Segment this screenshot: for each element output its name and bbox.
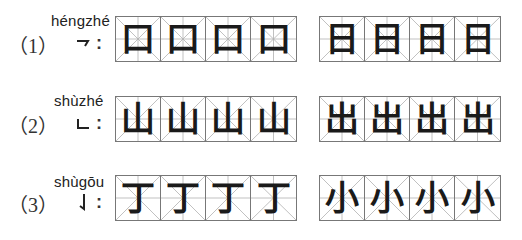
tracing-grid-1: 口 口 口 口: [115, 16, 297, 62]
character: 口: [251, 17, 296, 61]
tracing-cell: 山: [206, 97, 251, 141]
character: 山: [161, 97, 205, 141]
colon: :: [96, 192, 102, 213]
character: 丁: [206, 176, 250, 220]
tracing-grid-1: 山 山 山 山: [115, 96, 297, 142]
tracing-cell: 小: [320, 176, 365, 220]
tracing-cell: 口: [161, 17, 206, 61]
tracing-cell: 口: [251, 17, 296, 61]
character: 山: [206, 97, 250, 141]
tracing-grid-2: 小 小 小 小: [319, 175, 501, 221]
exercise-row-2: shùzhé （2） : 山 山 山 山 出 出 出 出: [0, 80, 522, 150]
character: 口: [206, 17, 250, 61]
character: 小: [365, 176, 409, 220]
character: 山: [251, 97, 296, 141]
shugou-stroke-icon: [75, 192, 91, 212]
tracing-grid-1: 丁 丁 丁 丁: [115, 175, 297, 221]
pinyin-label: héngzhé: [51, 12, 110, 29]
tracing-grid-2: 出 出 出 出: [319, 96, 501, 142]
character: 日: [410, 17, 454, 61]
character: 日: [365, 17, 409, 61]
character: 山: [116, 97, 160, 141]
item-number: （1）: [8, 30, 58, 59]
pinyin-label: shùgōu: [54, 173, 104, 190]
character: 日: [455, 17, 500, 61]
tracing-cell: 出: [320, 97, 365, 141]
item-number: （2）: [8, 110, 58, 139]
tracing-cell: 日: [410, 17, 455, 61]
character: 日: [320, 17, 364, 61]
character: 出: [365, 97, 409, 141]
tracing-cell: 出: [455, 97, 500, 141]
colon: :: [96, 33, 102, 54]
tracing-cell: 日: [365, 17, 410, 61]
character: 小: [455, 176, 500, 220]
character: 小: [320, 176, 364, 220]
character: 丁: [161, 176, 205, 220]
tracing-cell: 丁: [251, 176, 296, 220]
exercise-row-3: shùgōu （3） : 丁 丁 丁 丁 小 小 小 小: [0, 159, 522, 229]
character: 口: [161, 17, 205, 61]
tracing-cell: 日: [320, 17, 365, 61]
character: 丁: [251, 176, 296, 220]
exercise-row-1: héngzhé （1） : 口 口 口 口 日 日 日 日: [0, 0, 522, 70]
tracing-cell: 丁: [161, 176, 206, 220]
tracing-cell: 小: [365, 176, 410, 220]
tracing-cell: 丁: [116, 176, 161, 220]
character: 出: [410, 97, 454, 141]
tracing-cell: 口: [206, 17, 251, 61]
tracing-cell: 山: [251, 97, 296, 141]
tracing-cell: 山: [116, 97, 161, 141]
hengzhe-stroke-icon: [75, 34, 91, 54]
character: 出: [455, 97, 500, 141]
tracing-cell: 小: [455, 176, 500, 220]
pinyin-label: shùzhé: [54, 92, 104, 109]
tracing-cell: 出: [410, 97, 455, 141]
shuzhe-stroke-icon: [75, 114, 91, 134]
tracing-grid-2: 日 日 日 日: [319, 16, 501, 62]
character: 小: [410, 176, 454, 220]
tracing-cell: 出: [365, 97, 410, 141]
tracing-cell: 丁: [206, 176, 251, 220]
tracing-cell: 日: [455, 17, 500, 61]
colon: :: [96, 113, 102, 134]
item-number: （3）: [8, 189, 58, 218]
character: 出: [320, 97, 364, 141]
tracing-cell: 小: [410, 176, 455, 220]
character: 丁: [116, 176, 160, 220]
character: 口: [116, 17, 160, 61]
tracing-cell: 口: [116, 17, 161, 61]
tracing-cell: 山: [161, 97, 206, 141]
